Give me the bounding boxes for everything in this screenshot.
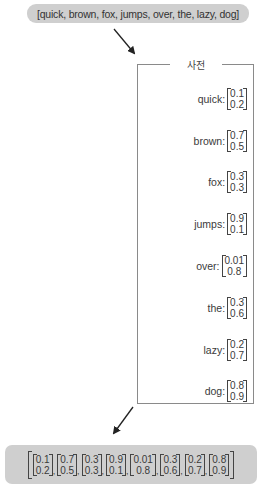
entry-word: dog: [205, 385, 225, 397]
separator: , [180, 467, 183, 476]
vector-value: 0.3 [230, 171, 244, 182]
dictionary-entry: lazy: 0.2 0.7 [204, 339, 248, 361]
output-vectors-box: 0.1 0.2 , 0.7 0.5 , 0.3 0.3 , 0.9 0.1 , … [5, 445, 257, 484]
arrow-to-output [114, 407, 133, 433]
vector-value: 0.6 [163, 465, 177, 476]
separator: , [102, 467, 105, 476]
vector-value: 0.1 [109, 465, 123, 476]
separator: , [205, 467, 208, 476]
vector-value: 0.1 [230, 88, 244, 99]
vector-value: 0.9 [230, 391, 244, 402]
entry-word: over: [196, 260, 219, 272]
output-vector: 0.2 0.7 , [185, 454, 207, 476]
separator: , [156, 467, 159, 476]
output-vector: 0.3 0.6 , [160, 454, 182, 476]
output-vector: 0.3 0.3 , [82, 454, 104, 476]
input-sentence-box: [quick, brown, fox, jumps, over, the, la… [27, 4, 249, 23]
vector-value: 0.7 [60, 454, 74, 465]
dictionary-entry: the: 0.3 0.6 [208, 297, 247, 319]
vector-value: 0.2 [230, 99, 244, 110]
entry-vector: 0.01 0.8 [222, 255, 247, 277]
entry-vector: 0.9 0.1 [227, 213, 247, 235]
vector-value: 0.8 [212, 454, 226, 465]
entry-word: the: [208, 302, 226, 314]
vector-value: 0.7 [188, 465, 202, 476]
vector-value: 0.5 [60, 465, 74, 476]
vector-value: 0.8 [227, 266, 241, 277]
vector-value: 0.01 [225, 255, 244, 266]
entry-vector: 0.3 0.6 [227, 297, 247, 319]
dictionary-title: 사전 [170, 57, 222, 72]
entry-word: brown: [194, 135, 226, 147]
entry-word: quick: [198, 93, 225, 105]
output-matrix: 0.1 0.2 , 0.7 0.5 , 0.3 0.3 , 0.9 0.1 , … [28, 454, 234, 476]
entry-word: fox: [208, 176, 225, 188]
vector-value: 0.6 [230, 308, 244, 319]
dictionary-entry: brown: 0.7 0.5 [194, 130, 247, 152]
vector-value: 0.1 [36, 454, 50, 465]
entry-vector: 0.2 0.7 [227, 339, 247, 361]
vector-value: 0.2 [188, 454, 202, 465]
input-sentence-text: [quick, brown, fox, jumps, over, the, la… [37, 8, 239, 20]
output-vector: 0.1 0.2 , [33, 454, 55, 476]
arrow-to-dictionary [114, 29, 134, 53]
vector-value: 0.3 [163, 454, 177, 465]
vector-value: 0.8 [230, 380, 244, 391]
dictionary-entry: fox: 0.3 0.3 [208, 171, 247, 193]
vector-value: 0.3 [230, 182, 244, 193]
vector-value: 0.2 [36, 465, 50, 476]
dictionary-entry: quick: 0.1 0.2 [198, 88, 247, 110]
output-vector: 0.8 0.9 [209, 454, 229, 476]
vector-value: 0.3 [85, 465, 99, 476]
dictionary-entry: dog: 0.8 0.9 [205, 380, 247, 402]
vector-value: 0.5 [230, 141, 244, 152]
vector-value: 0.3 [85, 454, 99, 465]
vector-value: 0.7 [230, 350, 244, 361]
entry-word: lazy: [204, 344, 226, 356]
vector-value: 0.9 [230, 213, 244, 224]
entry-vector: 0.8 0.9 [227, 380, 247, 402]
vector-value: 0.1 [230, 224, 244, 235]
output-vector: 0.01 0.8 , [130, 454, 158, 476]
entry-vector: 0.1 0.2 [227, 88, 247, 110]
dictionary-entry: jumps: 0.9 0.1 [194, 213, 247, 235]
separator: , [126, 467, 129, 476]
vector-value: 0.8 [136, 465, 150, 476]
separator: , [53, 467, 56, 476]
vector-value: 0.2 [230, 339, 244, 350]
entry-vector: 0.7 0.5 [227, 130, 247, 152]
vector-value: 0.01 [133, 454, 152, 465]
output-vector: 0.9 0.1 , [106, 454, 128, 476]
vector-value: 0.7 [230, 130, 244, 141]
entry-vector: 0.3 0.3 [227, 171, 247, 193]
entry-word: jumps: [194, 218, 225, 230]
vector-value: 0.3 [230, 297, 244, 308]
output-vector: 0.7 0.5 , [57, 454, 79, 476]
vector-value: 0.9 [109, 454, 123, 465]
dictionary-entry: over: 0.01 0.8 [196, 255, 247, 277]
separator: , [77, 467, 80, 476]
vector-value: 0.9 [212, 465, 226, 476]
